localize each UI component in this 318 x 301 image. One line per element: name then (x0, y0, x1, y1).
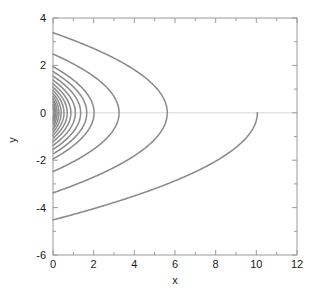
x-axis-title: x (172, 274, 178, 286)
x-tick-label: 8 (213, 258, 219, 270)
x-tick-label: 4 (131, 258, 137, 270)
y-tick-label: -4 (36, 202, 46, 214)
y-tick-label: -2 (36, 154, 46, 166)
y-tick-label: -6 (36, 249, 46, 261)
figure-canvas: 024681012 -6-4-2024 x y (0, 0, 318, 301)
x-tick-label: 2 (91, 258, 97, 270)
x-tick-label: 12 (291, 258, 303, 270)
y-tick-label: 4 (40, 12, 46, 24)
phase-portrait-chart: 024681012 -6-4-2024 x y (0, 0, 318, 301)
x-tick-label: 10 (250, 258, 262, 270)
x-tick-label: 6 (172, 258, 178, 270)
x-tick-label: 0 (50, 258, 56, 270)
y-axis-title: y (6, 137, 18, 143)
chart-background (0, 0, 318, 301)
y-tick-label: 0 (40, 107, 46, 119)
y-tick-label: 2 (40, 59, 46, 71)
